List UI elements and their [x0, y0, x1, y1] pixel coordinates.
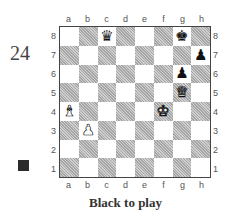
square-h2: [191, 140, 210, 159]
square-b7: [79, 46, 98, 65]
square-h7: ♟: [191, 46, 210, 65]
square-b2: [79, 140, 98, 159]
caption: Black to play: [0, 195, 229, 211]
chess-board: ♛♚♟♟♛♝♚♟: [59, 26, 211, 178]
file-label: f: [154, 14, 173, 24]
square-a6: [60, 65, 79, 84]
square-c7: [98, 46, 117, 65]
square-f2: [154, 140, 173, 159]
puzzle-number: 24: [10, 42, 30, 65]
white-pawn-icon: ♟: [81, 123, 94, 138]
square-f1: [154, 158, 173, 177]
square-c8: ♛: [98, 27, 117, 46]
file-label: b: [78, 180, 97, 190]
square-d6: [116, 65, 135, 84]
square-e1: [135, 158, 154, 177]
square-a7: [60, 46, 79, 65]
square-c1: [98, 158, 117, 177]
file-label: b: [78, 14, 97, 24]
file-label: a: [59, 14, 78, 24]
square-g5: ♛: [173, 83, 192, 102]
square-g3: [173, 121, 192, 140]
rank-label: 6: [213, 64, 218, 83]
square-g6: ♟: [173, 65, 192, 84]
file-label: g: [173, 180, 192, 190]
square-a2: [60, 140, 79, 159]
square-a5: [60, 83, 79, 102]
square-c6: [98, 65, 117, 84]
square-b4: [79, 102, 98, 121]
rank-label: 2: [213, 140, 218, 159]
white-king-icon: ♚: [156, 104, 169, 119]
file-labels-top: a b c d e f g h: [59, 14, 211, 24]
square-f7: [154, 46, 173, 65]
square-e8: [135, 27, 154, 46]
square-e7: [135, 46, 154, 65]
file-labels-bottom: a b c d e f g h: [59, 180, 211, 190]
square-e6: [135, 65, 154, 84]
rank-label: 7: [51, 45, 56, 64]
square-a3: [60, 121, 79, 140]
square-b6: [79, 65, 98, 84]
square-f3: [154, 121, 173, 140]
rank-label: 4: [51, 102, 56, 121]
rank-label: 8: [213, 26, 218, 45]
black-king-icon: ♚: [175, 29, 188, 44]
rank-label: 5: [213, 83, 218, 102]
square-h1: [191, 158, 210, 177]
rank-label: 2: [51, 140, 56, 159]
file-label: c: [97, 180, 116, 190]
square-e2: [135, 140, 154, 159]
file-label: a: [59, 180, 78, 190]
square-h8: [191, 27, 210, 46]
file-label: c: [97, 14, 116, 24]
square-d8: [116, 27, 135, 46]
square-f5: [154, 83, 173, 102]
rank-label: 3: [51, 121, 56, 140]
square-h5: [191, 83, 210, 102]
square-h6: [191, 65, 210, 84]
square-c2: [98, 140, 117, 159]
file-label: g: [173, 14, 192, 24]
file-label: d: [116, 14, 135, 24]
square-b8: [79, 27, 98, 46]
rank-label: 7: [213, 45, 218, 64]
rank-label: 1: [213, 159, 218, 178]
rank-label: 3: [213, 121, 218, 140]
square-h4: [191, 102, 210, 121]
square-d3: [116, 121, 135, 140]
rank-label: 4: [213, 102, 218, 121]
square-e4: [135, 102, 154, 121]
black-pawn-icon: ♟: [194, 48, 207, 63]
file-label: e: [135, 14, 154, 24]
square-g4: [173, 102, 192, 121]
square-b3: ♟: [79, 121, 98, 140]
white-queen-icon: ♛: [175, 85, 188, 100]
square-g7: [173, 46, 192, 65]
square-f8: [154, 27, 173, 46]
white-bishop-icon: ♝: [63, 104, 76, 119]
square-a8: [60, 27, 79, 46]
square-d4: [116, 102, 135, 121]
square-d7: [116, 46, 135, 65]
square-f4: ♚: [154, 102, 173, 121]
black-pawn-icon: ♟: [175, 66, 188, 81]
square-d5: [116, 83, 135, 102]
square-g8: ♚: [173, 27, 192, 46]
side-to-move-marker: [18, 160, 29, 171]
square-a1: [60, 158, 79, 177]
file-label: d: [116, 180, 135, 190]
rank-label: 6: [51, 64, 56, 83]
square-d1: [116, 158, 135, 177]
square-g1: [173, 158, 192, 177]
square-b1: [79, 158, 98, 177]
rank-labels-right: 8 7 6 5 4 3 2 1: [213, 26, 218, 178]
square-f6: [154, 65, 173, 84]
square-c3: [98, 121, 117, 140]
square-c5: [98, 83, 117, 102]
file-label: h: [192, 14, 211, 24]
rank-labels-left: 8 7 6 5 4 3 2 1: [51, 26, 56, 178]
square-c4: [98, 102, 117, 121]
square-d2: [116, 140, 135, 159]
square-e3: [135, 121, 154, 140]
